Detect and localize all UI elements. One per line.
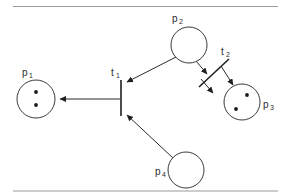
token-dot — [234, 107, 238, 111]
place-label-p3: p — [263, 99, 269, 110]
place-label-p1: p — [22, 67, 28, 78]
arc-t2-to-p3 — [221, 66, 233, 85]
transition-label-t1-subscript: 1 — [116, 72, 120, 79]
place-circle-p4[interactable] — [168, 152, 204, 188]
transition-group — [121, 59, 229, 116]
place-label-p3-subscript: 3 — [270, 104, 274, 111]
transition-bar-t2[interactable] — [199, 59, 229, 87]
place-label-p2-subscript: 2 — [179, 18, 183, 25]
place-label-p4-subscript: 4 — [162, 171, 166, 178]
arc-group — [60, 57, 233, 158]
transition-label-t2: t — [221, 46, 224, 57]
token-dot — [34, 90, 38, 94]
place-label-p1-subscript: 1 — [29, 72, 33, 79]
arc-p2-to-t2 — [196, 61, 207, 74]
place-circle-p1[interactable] — [17, 80, 55, 118]
transition-label-t1: t — [111, 67, 114, 78]
place-circle-p2[interactable] — [171, 27, 207, 63]
place-circle-p3[interactable] — [224, 84, 260, 120]
arc-p2-to-t1 — [127, 57, 176, 82]
arc-p4-to-t1 — [127, 115, 173, 158]
token-dot — [34, 103, 38, 107]
arc-t2-to-p3-lower — [201, 79, 213, 93]
token-dot — [245, 93, 249, 97]
place-label-p4: p — [155, 166, 161, 177]
place-label-p2: p — [172, 13, 178, 24]
transition-label-t2-subscript: 2 — [226, 51, 230, 58]
petri-net-figure: p 1 p 2 p 3 p 4 t 1 t 2 — [0, 0, 289, 196]
petri-net-canvas: p 1 p 2 p 3 p 4 t 1 t 2 — [0, 0, 289, 196]
